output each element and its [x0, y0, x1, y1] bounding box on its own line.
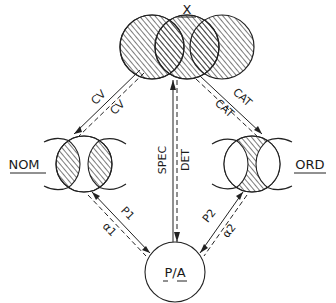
edge-x-nom-label-2: CV [108, 97, 128, 117]
edge-x-nom [74, 70, 144, 137]
edge-nom-pa-label-1: P1 [118, 204, 137, 223]
node-x-label: X [183, 2, 192, 17]
node-ord-label: ORD [295, 157, 324, 172]
edge-x-ord-label-2: CAT [212, 97, 237, 121]
edge-x-ord-label-1: CAT [230, 86, 255, 110]
edge-nom-pa-label-2: α1 [100, 220, 119, 239]
edge-nom-pa [88, 192, 150, 256]
node-x [120, 15, 254, 79]
edge-x-pa-label-2: DET [179, 149, 192, 171]
edge-x-nom-label-1: CV [89, 87, 109, 107]
edge-ord-pa-label-2: α2 [220, 221, 239, 240]
node-pa-label: P/A [164, 265, 185, 280]
node-nom-label: NOM [8, 157, 39, 172]
diagram-canvas: X NOM ORD P/A [0, 0, 336, 303]
edge-x-pa-label-1: SPEC [156, 146, 169, 175]
edge-ord-pa-label-1: P2 [200, 206, 219, 225]
